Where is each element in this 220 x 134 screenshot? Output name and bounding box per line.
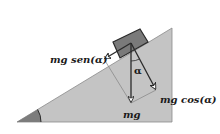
base-angle-wedge — [17, 110, 41, 123]
label-mg-sen-alpha: mg sen(α) — [50, 54, 108, 65]
label-mg: mg — [123, 109, 141, 120]
label-alpha: α — [134, 65, 142, 76]
label-mg-cos-alpha: mg cos(α) — [160, 94, 217, 105]
inclined-plane-diagram: mg sen(α) α mg cos(α) mg — [0, 0, 220, 134]
